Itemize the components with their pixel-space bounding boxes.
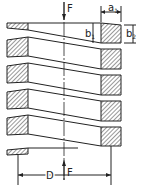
diameter-label: D bbox=[46, 170, 54, 181]
force-label-top: F bbox=[67, 3, 73, 14]
spring-diagram: F F a1 b1 b2 D bbox=[0, 0, 148, 191]
force-label-bottom: F bbox=[67, 167, 73, 178]
b1-label: b1 bbox=[85, 28, 95, 40]
coil-section-left-top bbox=[7, 23, 28, 30]
force-arrow-bottom-icon bbox=[62, 160, 66, 166]
force-arrow-top-icon bbox=[62, 14, 66, 20]
a1-label: a1 bbox=[108, 2, 118, 14]
b2-label: b2 bbox=[126, 28, 136, 40]
